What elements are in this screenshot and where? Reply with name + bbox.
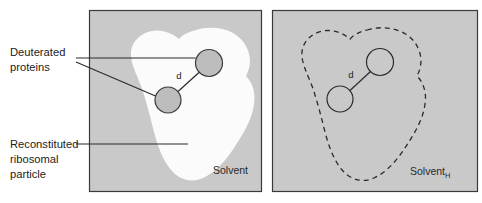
callout-deuterated-proteins-line2: proteins	[10, 61, 50, 73]
callout-ribosomal-particle-line1: Reconstituted	[10, 138, 78, 150]
callout-ribosomal-particle-line3: particle	[10, 168, 46, 180]
diagram-canvas: d Solvent d SolventH Deuterated	[0, 0, 482, 203]
figure-root: d Solvent d SolventH Deuterated	[0, 0, 482, 203]
deuterated-protein-lower-right	[327, 86, 353, 112]
panel-left-solvent-label: Solvent	[213, 164, 248, 176]
panel-right-background	[273, 11, 478, 192]
deuterated-protein-lower-left	[155, 87, 181, 113]
panel-right-solvent-label-text: Solvent	[410, 165, 445, 177]
panel-right: d SolventH	[273, 11, 478, 192]
deuterated-protein-upper-right	[367, 49, 394, 76]
panel-right-solvent-label-subscript: H	[445, 171, 450, 180]
callout-ribosomal-particle-line2: ribosomal	[10, 153, 59, 165]
distance-label-left: d	[176, 70, 181, 81]
panel-left: d Solvent	[90, 11, 262, 192]
callout-deuterated-proteins-line1: Deuterated	[10, 46, 65, 58]
deuterated-protein-upper-left	[196, 50, 223, 77]
distance-label-right: d	[348, 69, 353, 80]
